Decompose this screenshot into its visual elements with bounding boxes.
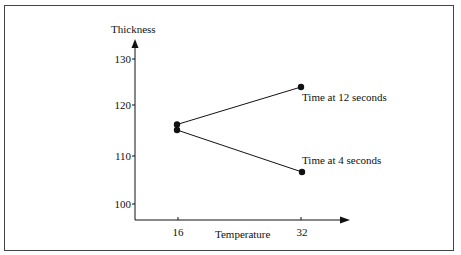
y-tick-label-110: 110: [115, 150, 132, 162]
series-label-12s: Time at 12 seconds: [302, 91, 387, 103]
line-chart: 130 120 110 100 16 32 Thickness Temperat…: [0, 0, 461, 255]
series-line-12s: [177, 87, 301, 125]
y-tick-label-120: 120: [115, 99, 132, 111]
series-label-4s: Time at 4 seconds: [302, 154, 381, 166]
y-tick-label-130: 130: [115, 53, 132, 65]
data-point: [174, 127, 180, 133]
y-axis-label: Thickness: [111, 23, 156, 35]
x-axis-arrow-icon: [340, 217, 350, 224]
x-axis-label: Temperature: [215, 228, 271, 240]
data-point: [298, 84, 304, 90]
data-point: [174, 121, 180, 127]
y-axis-arrow-icon: [132, 39, 139, 48]
data-point: [299, 169, 305, 175]
series-line-4s: [177, 130, 302, 172]
x-tick-label-16: 16: [173, 226, 185, 238]
x-tick-label-32: 32: [297, 226, 308, 238]
y-tick-label-100: 100: [115, 198, 132, 210]
